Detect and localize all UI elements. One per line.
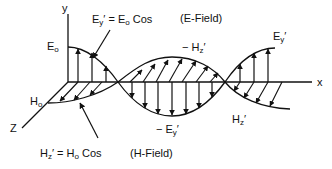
neg-ey-label: − Ey′ xyxy=(156,123,179,137)
h-equation-pointer xyxy=(80,103,98,138)
em-wave-diagram: y x Z Eo Ho Ey′ = Eo Cos (E-Field) Hz′ =… xyxy=(0,0,332,169)
x-axis-label: x xyxy=(317,76,323,88)
h0-label: Ho xyxy=(30,95,43,109)
y-axis-label: y xyxy=(62,2,68,14)
h-equation: Hz′ = Ho Cos xyxy=(40,147,102,161)
z-axis-label: Z xyxy=(10,122,17,134)
hz-peak-label: Hz′ xyxy=(232,113,246,127)
e-field-name: (E-Field) xyxy=(180,12,222,24)
ey-peak-label: Ey′ xyxy=(273,30,286,44)
z-axis xyxy=(22,82,68,128)
neg-hz-label: − Hz′ xyxy=(182,41,206,55)
e-equation-pointer xyxy=(93,30,110,58)
h-field-name: (H-Field) xyxy=(130,147,173,159)
e-equation: Ey′ = Eo Cos xyxy=(92,13,153,27)
callout-arrows xyxy=(80,30,110,138)
e0-label: Eo xyxy=(47,40,59,54)
